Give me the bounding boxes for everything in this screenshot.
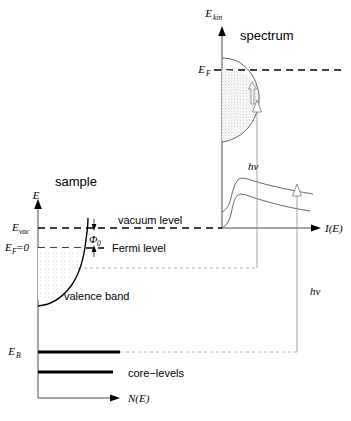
spectrum-y-axis-label-sub: kin (213, 13, 222, 22)
fermi-level-name: Fermi level (112, 242, 166, 254)
binding-energy-symbol-base: E (7, 345, 15, 357)
spectrum-title: spectrum (240, 28, 293, 43)
vacuum-level-symbol-sub: vac (19, 227, 30, 236)
photon-label-upper: hν (248, 160, 259, 172)
sample-y-axis-label: E (32, 189, 40, 201)
valence-band-label: valence band (64, 290, 129, 302)
figure-canvas: E kin spectrum E F I(E) hν hν sample E E… (0, 0, 351, 421)
binding-energy-symbol-sub: B (16, 351, 21, 360)
sample-x-axis-label: N(E) (127, 392, 150, 405)
fermi-level-symbol-tail: =0 (16, 241, 29, 253)
vacuum-level-symbol-base: E (11, 221, 19, 233)
spectrum-fermi-label-sub: F (205, 69, 211, 78)
spectrum-fermi-label-base: E (197, 63, 205, 75)
core-levels-label: core−levels (128, 367, 184, 379)
spectrum-y-axis-label-base: E (204, 7, 212, 19)
sample-x-axis (38, 394, 120, 401)
spectrum-x-axis (222, 224, 321, 231)
fermi-level-symbol-base: E (4, 241, 12, 253)
photoemission-diagram: E kin spectrum E F I(E) hν hν sample E E… (0, 0, 351, 421)
vacuum-level-name: vacuum level (118, 214, 182, 226)
sample-title: sample (55, 174, 97, 189)
work-function-symbol-sub: 0 (97, 239, 101, 248)
spectrum-x-axis-label: I(E) (324, 222, 343, 235)
photon-arrow-valence (253, 100, 262, 268)
photon-label-lower: hν (310, 285, 321, 297)
